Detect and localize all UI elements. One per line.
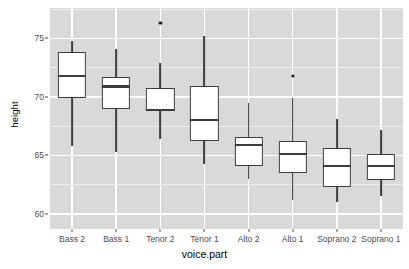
x-axis-tick-label-alto-2: Alto 2 xyxy=(238,234,260,244)
x-axis-tick-mark xyxy=(160,229,161,232)
whisker-lower xyxy=(380,180,382,196)
iqr-box xyxy=(146,88,174,111)
whisker-lower xyxy=(115,109,117,152)
whisker-upper xyxy=(336,119,338,148)
whisker-upper xyxy=(380,130,382,155)
whisker-lower xyxy=(248,166,250,179)
median-line xyxy=(234,144,262,146)
whisker-upper xyxy=(248,103,250,137)
x-axis-tick-mark xyxy=(116,229,117,232)
median-line xyxy=(146,109,174,111)
x-axis-tick-mark xyxy=(336,229,337,232)
median-line xyxy=(190,119,218,121)
x-axis-tick-mark xyxy=(204,229,205,232)
iqr-box xyxy=(279,141,307,173)
y-axis-tick-label: 65 xyxy=(18,150,48,160)
whisker-upper xyxy=(159,63,161,88)
boxplot-box-bass-1 xyxy=(94,8,138,229)
iqr-box xyxy=(190,86,218,141)
whisker-upper xyxy=(115,49,117,77)
outlier-point xyxy=(291,74,294,77)
boxplot-box-soprano-1 xyxy=(359,8,403,229)
x-axis-tick-label-soprano-2: Soprano 2 xyxy=(317,234,356,244)
whisker-lower xyxy=(336,187,338,202)
x-axis-tick-label-bass-1: Bass 1 xyxy=(103,234,129,244)
x-axis-tick-mark xyxy=(292,229,293,232)
whisker-upper xyxy=(71,41,73,53)
whisker-lower xyxy=(71,98,73,146)
x-axis-tick-label-bass-2: Bass 2 xyxy=(59,234,85,244)
y-axis-tick-label: 75 xyxy=(18,33,48,43)
boxplot-figure: height 60657075 Bass 2Bass 1Tenor 2Tenor… xyxy=(0,0,409,269)
y-axis-tick-label: 60 xyxy=(18,209,48,219)
x-axis-tick-label-alto-1: Alto 1 xyxy=(282,234,304,244)
x-axis-title-label: voice.part xyxy=(182,248,228,260)
boxplot-box-soprano-2 xyxy=(315,8,359,229)
boxplot-box-bass-2 xyxy=(50,8,94,229)
boxplot-box-tenor-1 xyxy=(182,8,226,229)
plot-panel xyxy=(50,8,403,229)
whisker-upper xyxy=(292,98,294,141)
x-axis-tick-label-tenor-1: Tenor 1 xyxy=(190,234,218,244)
iqr-box xyxy=(323,148,351,187)
y-axis-tick-mark xyxy=(45,38,48,39)
x-axis-tick-mark xyxy=(72,229,73,232)
x-axis-tick-label-tenor-2: Tenor 2 xyxy=(146,234,174,244)
iqr-box xyxy=(102,77,130,109)
boxplot-box-alto-1 xyxy=(271,8,315,229)
y-axis-tick-mark xyxy=(45,213,48,214)
x-axis-tick-mark xyxy=(248,229,249,232)
median-line xyxy=(279,153,307,155)
x-axis-title: voice.part xyxy=(0,248,409,260)
median-line xyxy=(323,165,351,167)
median-line xyxy=(102,85,130,87)
whisker-lower xyxy=(204,141,206,163)
whisker-lower xyxy=(159,111,161,139)
whisker-upper xyxy=(204,36,206,86)
boxplot-box-tenor-2 xyxy=(138,8,182,229)
iqr-box xyxy=(234,137,262,166)
outlier-point xyxy=(159,22,162,25)
y-axis-tick-mark xyxy=(45,155,48,156)
boxplot-box-alto-2 xyxy=(227,8,271,229)
median-line xyxy=(58,75,86,77)
x-axis-tick-mark xyxy=(380,229,381,232)
whisker-lower xyxy=(292,173,294,200)
x-axis-tick-label-soprano-1: Soprano 1 xyxy=(361,234,400,244)
y-axis-tick-mark xyxy=(45,96,48,97)
median-line xyxy=(367,165,395,167)
y-axis-ticks: 60657075 xyxy=(18,0,48,269)
y-axis-tick-label: 70 xyxy=(18,92,48,102)
